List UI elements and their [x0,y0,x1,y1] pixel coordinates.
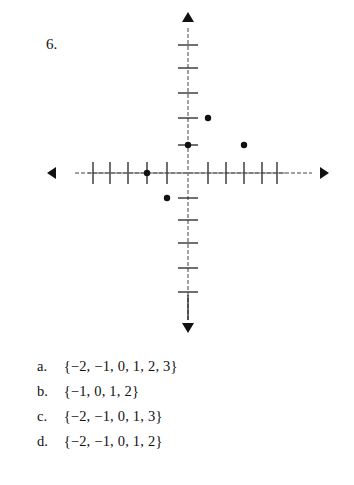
choice-set: {−2, −1, 0, 1, 3} [64,408,163,424]
left-arrow-icon [47,167,56,179]
choice-set: {−2, −1, 0, 1, 2, 3} [64,358,178,374]
choice-label: c. [37,404,60,429]
data-point [241,142,247,148]
coordinate-plane [0,0,354,350]
choice-label: a. [37,354,60,379]
data-point [205,115,211,121]
choice-label: d. [37,429,60,454]
choice-d[interactable]: d. {−2, −1, 0, 1, 2} [37,429,178,454]
right-arrow-icon [320,167,329,179]
choice-set: {−1, 0, 1, 2} [64,383,139,399]
choice-label: b. [37,379,60,404]
choice-b[interactable]: b. {−1, 0, 1, 2} [37,379,178,404]
choice-a[interactable]: a. {−2, −1, 0, 1, 2, 3} [37,354,178,379]
choice-set: {−2, −1, 0, 1, 2} [64,433,163,449]
up-arrow-icon [182,12,194,22]
data-point [144,170,150,176]
data-point [185,142,191,148]
answer-choices: a. {−2, −1, 0, 1, 2, 3} b. {−1, 0, 1, 2}… [37,354,178,454]
choice-c[interactable]: c. {−2, −1, 0, 1, 3} [37,404,178,429]
down-arrow-icon [182,323,194,333]
data-point [164,195,170,201]
